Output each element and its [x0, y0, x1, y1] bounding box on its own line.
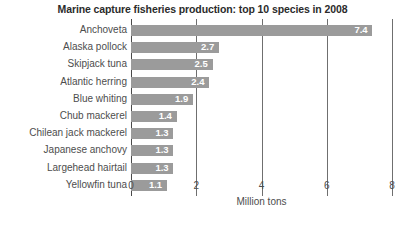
category-label: Anchoveta	[0, 24, 127, 36]
category-label: Skipjack tuna	[0, 58, 127, 70]
x-tick-label: 6	[324, 180, 330, 192]
bar-row: Chilean jack mackerel1.3	[131, 127, 392, 144]
bar	[131, 25, 372, 36]
category-label: Blue whiting	[0, 93, 127, 105]
bar-row: Alaska pollock2.7	[131, 41, 392, 58]
bar-value-label: 1.3	[155, 162, 168, 173]
bar-row: Japanese anchovy1.3	[131, 144, 392, 161]
bar-value-label: 2.5	[195, 58, 208, 69]
bar-value-label: 1.4	[159, 110, 172, 121]
bar-value-label: 1.3	[155, 144, 168, 155]
bar-row: Largehead hairtail1.3	[131, 162, 392, 179]
bar-row: Blue whiting1.9	[131, 93, 392, 110]
x-tick-label: 4	[259, 180, 265, 192]
category-label: Yellowfin tuna	[0, 179, 127, 191]
category-label: Atlantic herring	[0, 76, 127, 88]
bar-row: Chub mackerel1.4	[131, 110, 392, 127]
category-label: Alaska pollock	[0, 41, 127, 53]
bar-value-label: 2.7	[201, 41, 214, 52]
bar-row: Anchoveta7.4	[131, 24, 392, 41]
plot-area: Anchoveta7.4Alaska pollock2.7Skipjack tu…	[131, 24, 392, 196]
bar-chart: Marine capture fisheries production: top…	[0, 0, 405, 231]
bar-value-label: 1.9	[175, 93, 188, 104]
gridline-8	[392, 19, 393, 196]
category-label: Largehead hairtail	[0, 162, 127, 174]
chart-title: Marine capture fisheries production: top…	[0, 3, 405, 15]
category-label: Chilean jack mackerel	[0, 127, 127, 139]
bar-row: Atlantic herring2.4	[131, 76, 392, 93]
bar-value-label: 7.4	[354, 24, 367, 35]
x-tick-label: 2	[193, 180, 199, 192]
category-label: Chub mackerel	[0, 110, 127, 122]
bar-value-label: 1.1	[149, 179, 162, 190]
bar-row: Skipjack tuna2.5	[131, 58, 392, 75]
bar-value-label: 2.4	[191, 76, 204, 87]
bar-value-label: 1.3	[155, 127, 168, 138]
category-label: Japanese anchovy	[0, 144, 127, 156]
x-axis-title: Million tons	[131, 196, 392, 207]
x-tick-label: 0	[128, 180, 134, 192]
x-tick-label: 8	[389, 180, 395, 192]
